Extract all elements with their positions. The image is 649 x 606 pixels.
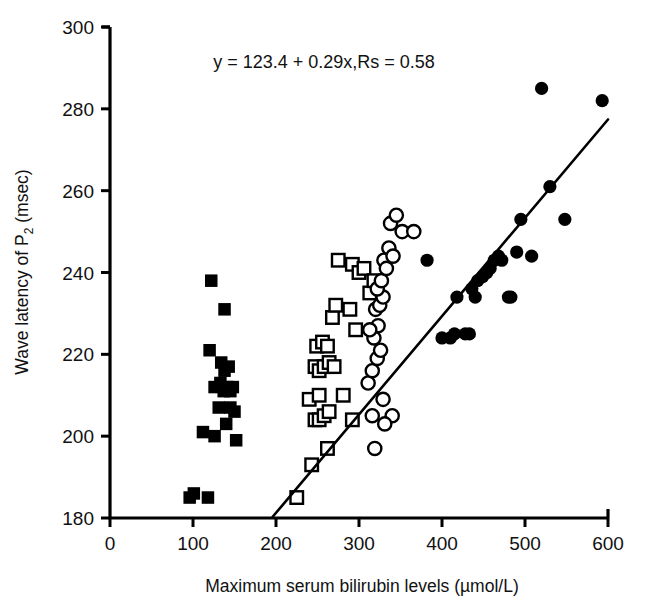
point-filled-circle bbox=[535, 82, 548, 95]
point-open-square bbox=[313, 389, 326, 402]
y-tick-label-220: 220 bbox=[62, 344, 94, 365]
point-filled-square bbox=[218, 303, 231, 316]
x-axis-title: Maximum serum bilirubin levels (µmol/L) bbox=[205, 576, 519, 596]
point-open-circle bbox=[380, 262, 393, 275]
x-tick-label-0: 0 bbox=[105, 533, 116, 554]
point-open-square bbox=[332, 254, 345, 267]
y-tick-label-200: 200 bbox=[62, 426, 94, 447]
y-axis-title: Wave latency of P2 (msec) bbox=[12, 169, 36, 374]
point-open-circle bbox=[386, 250, 399, 263]
regression-equation-text: y = 123.4 + 0.29x,Rs = 0.58 bbox=[213, 52, 435, 72]
point-open-square bbox=[330, 299, 343, 312]
point-open-circle bbox=[368, 442, 381, 455]
point-filled-circle bbox=[420, 254, 433, 267]
point-filled-square bbox=[230, 434, 243, 447]
point-filled-circle bbox=[558, 213, 571, 226]
point-filled-circle bbox=[504, 290, 517, 303]
point-filled-square bbox=[220, 418, 233, 431]
series-open-circle bbox=[362, 209, 421, 455]
regression-annotation: y = 123.4 + 0.29x,Rs = 0.58 bbox=[213, 52, 435, 72]
point-open-circle bbox=[376, 393, 389, 406]
chart-canvas: 0100200300400500600180200220240260280300… bbox=[0, 0, 649, 606]
y-tick-label-260: 260 bbox=[62, 181, 94, 202]
axis-titles: Maximum serum bilirubin levels (µmol/L)W… bbox=[12, 169, 519, 596]
point-filled-square bbox=[222, 360, 235, 373]
point-open-circle bbox=[366, 409, 379, 422]
point-filled-square bbox=[203, 344, 216, 357]
point-open-square bbox=[328, 360, 341, 373]
y-tick-label-240: 240 bbox=[62, 263, 94, 284]
point-open-circle bbox=[363, 323, 376, 336]
x-tick-label-600: 600 bbox=[592, 533, 624, 554]
scatter-plot-figure: 0100200300400500600180200220240260280300… bbox=[0, 0, 649, 606]
x-tick-label-300: 300 bbox=[343, 533, 375, 554]
x-tick-label-400: 400 bbox=[426, 533, 458, 554]
y-axis-title-main: Wave latency of P bbox=[12, 234, 32, 374]
point-filled-circle bbox=[525, 250, 538, 263]
tick-label-group: 0100200300400500600180200220240260280300 bbox=[62, 17, 624, 554]
x-tick-label-200: 200 bbox=[260, 533, 292, 554]
point-filled-square bbox=[188, 487, 201, 500]
point-filled-circle bbox=[495, 254, 508, 267]
point-open-circle bbox=[390, 209, 403, 222]
point-filled-circle bbox=[510, 245, 523, 258]
point-open-square bbox=[344, 303, 357, 316]
point-filled-square bbox=[208, 430, 221, 443]
point-open-square bbox=[349, 324, 362, 337]
point-filled-square bbox=[202, 491, 215, 504]
point-filled-square bbox=[228, 405, 241, 418]
series-filled-square bbox=[183, 274, 242, 503]
point-open-square bbox=[358, 262, 371, 275]
x-tick-label-500: 500 bbox=[509, 533, 541, 554]
point-filled-circle bbox=[596, 94, 609, 107]
point-open-square bbox=[337, 389, 350, 402]
point-filled-square bbox=[227, 381, 240, 394]
point-filled-square bbox=[212, 401, 225, 414]
point-open-circle bbox=[378, 417, 391, 430]
y-axis-title-units: (msec) bbox=[12, 169, 32, 227]
regression-line-segment bbox=[273, 119, 608, 516]
series-filled-circle bbox=[420, 82, 608, 345]
y-tick-label-180: 180 bbox=[62, 508, 94, 529]
point-filled-circle bbox=[469, 290, 482, 303]
point-open-circle bbox=[407, 225, 420, 238]
point-open-square bbox=[323, 405, 336, 418]
point-open-circle bbox=[374, 344, 387, 357]
point-open-square bbox=[321, 340, 334, 353]
point-filled-square bbox=[205, 274, 218, 287]
point-filled-square bbox=[197, 426, 210, 439]
y-tick-label-300: 300 bbox=[62, 17, 94, 38]
point-open-square bbox=[326, 311, 339, 324]
regression-line bbox=[273, 119, 608, 516]
y-tick-label-280: 280 bbox=[62, 99, 94, 120]
x-tick-label-100: 100 bbox=[177, 533, 209, 554]
data-points-group bbox=[183, 82, 608, 504]
point-filled-circle bbox=[463, 327, 476, 340]
